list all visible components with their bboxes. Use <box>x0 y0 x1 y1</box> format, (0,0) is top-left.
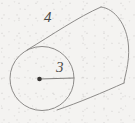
center-point-dot <box>37 77 42 82</box>
bottom-slant-edge-path <box>57 83 124 110</box>
top-slant-edge-path <box>27 7 101 50</box>
far-base-cap-path <box>101 7 129 83</box>
cylinder-diagram-svg <box>0 0 135 123</box>
radius-segment-line <box>40 78 75 79</box>
cylinder-diagram-figure: 4 3 <box>0 0 135 123</box>
radius-label: 3 <box>56 60 64 75</box>
slant-length-label: 4 <box>44 10 52 25</box>
